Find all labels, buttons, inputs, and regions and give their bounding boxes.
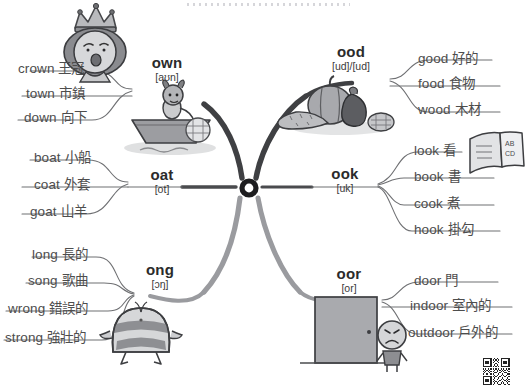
branch-key-own-phonetic: [aʊn]: [131, 72, 203, 84]
word-item[interactable]: town 市鎮: [26, 82, 85, 102]
mindmap-canvas: AB CD: [0, 0, 525, 385]
branch-key-ong-phonetic: [ɔŋ]: [124, 279, 196, 291]
word-zh: 錯誤的: [49, 301, 88, 316]
word-zh: 戶外的: [458, 325, 497, 340]
word-zh: 室內的: [452, 298, 491, 313]
branch-key-ook-label: ook: [312, 166, 378, 183]
word-item[interactable]: down 向下: [24, 106, 87, 126]
strong-bee-illustration: [100, 302, 182, 364]
word-zh: 王冠: [58, 61, 84, 76]
word-zh: 煮: [447, 196, 460, 211]
branch-key-oor-label: oor: [316, 266, 382, 283]
word-en: coat: [34, 177, 60, 192]
branch-key-oor: oor [or]: [316, 266, 382, 295]
word-en: goat: [30, 204, 57, 219]
word-item[interactable]: song 歌曲: [28, 269, 88, 289]
word-zh: 小船: [65, 150, 91, 165]
word-en: song: [28, 273, 58, 288]
word-zh: 外套: [64, 177, 90, 192]
branch-key-ong-label: ong: [124, 262, 196, 279]
word-item[interactable]: goat 山羊: [30, 200, 87, 220]
word-zh: 強壯的: [47, 330, 86, 345]
word-item[interactable]: hook 掛勾: [414, 218, 474, 238]
branch-key-own: own [aʊn]: [131, 55, 203, 84]
word-en: boat: [34, 150, 61, 165]
word-zh: 食物: [449, 76, 475, 91]
word-item[interactable]: cook 煮: [414, 192, 460, 212]
word-item[interactable]: wrong 錯誤的: [8, 297, 88, 317]
word-en: wood: [418, 102, 451, 117]
word-zh: 掛勾: [448, 222, 474, 237]
word-item[interactable]: indoor 室內的: [410, 294, 491, 314]
word-en: indoor: [410, 298, 448, 313]
word-en: wrong: [8, 301, 45, 316]
word-item[interactable]: book 書: [414, 165, 461, 185]
qr-code: [479, 358, 513, 385]
word-item[interactable]: wood 木材: [418, 98, 481, 118]
word-en: long: [32, 247, 58, 262]
branch-key-oat-label: oat: [128, 167, 196, 184]
word-zh: 看: [443, 143, 456, 158]
word-zh: 長的: [62, 247, 88, 262]
word-en: book: [414, 169, 444, 184]
word-en: down: [24, 110, 57, 125]
branch-key-ood-label: ood: [316, 44, 386, 61]
word-en: look: [414, 143, 439, 158]
word-item[interactable]: door 門: [414, 269, 458, 289]
word-en: outdoor: [408, 325, 455, 340]
open-book-illustration: AB CD: [470, 132, 524, 173]
word-zh: 木材: [455, 102, 481, 117]
word-zh: 書: [448, 169, 461, 184]
svg-text:AB: AB: [505, 140, 515, 147]
word-en: town: [26, 86, 55, 101]
word-item[interactable]: strong 強壯的: [5, 326, 86, 346]
word-zh: 山羊: [61, 204, 87, 219]
word-zh: 好的: [452, 51, 478, 66]
branch-key-ood-phonetic: [ud]/[ud]: [316, 61, 386, 73]
word-item[interactable]: look 看: [414, 139, 456, 159]
word-zh: 門: [445, 273, 458, 288]
word-item[interactable]: long 長的: [32, 243, 88, 263]
branch-key-ood: ood [ud]/[ud]: [316, 44, 386, 73]
goat-in-boat-illustration: [124, 80, 216, 155]
word-item[interactable]: good 好的: [418, 47, 479, 67]
branch-key-oor-phonetic: [or]: [316, 283, 382, 295]
branch-key-ong: ong [ɔŋ]: [124, 262, 196, 291]
word-item[interactable]: boat 小船: [34, 146, 91, 166]
svg-text:CD: CD: [505, 150, 515, 157]
word-en: food: [418, 76, 445, 91]
word-en: strong: [5, 330, 43, 345]
word-zh: 歌曲: [62, 273, 88, 288]
word-item[interactable]: outdoor 戶外的: [408, 321, 498, 341]
word-en: crown: [18, 61, 55, 76]
word-en: door: [414, 273, 441, 288]
vegetables-food-illustration: [278, 76, 394, 135]
branch-key-oat: oat [ot]: [128, 167, 196, 196]
word-zh: 市鎮: [59, 86, 85, 101]
branch-key-own-label: own: [131, 55, 203, 72]
word-item[interactable]: food 食物: [418, 72, 475, 92]
word-en: cook: [414, 196, 443, 211]
word-item[interactable]: coat 外套: [34, 173, 90, 193]
word-zh: 向下: [61, 110, 87, 125]
door-with-sad-kid-illustration: [300, 297, 407, 372]
word-item[interactable]: crown 王冠: [18, 57, 85, 77]
word-en: hook: [414, 222, 444, 237]
word-en: good: [418, 51, 448, 66]
branch-key-ook: ook [uk]: [312, 166, 378, 195]
branch-key-oat-phonetic: [ot]: [128, 184, 196, 196]
branch-key-ook-phonetic: [uk]: [312, 183, 378, 195]
